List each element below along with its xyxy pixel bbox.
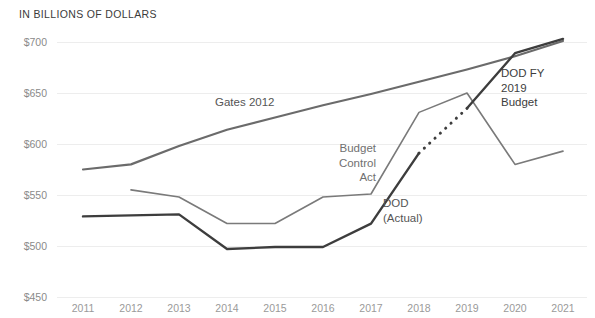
y-tick-label-700: $700: [24, 36, 48, 48]
annotation-gates-2012: Gates 2012: [215, 96, 274, 108]
annotation-dod-fy-2019-budget-line-2: Budget: [501, 96, 538, 108]
annotation-dod-actual-line-1: (Actual): [383, 212, 423, 224]
y-tick-label-650: $650: [24, 87, 48, 99]
chart-title: IN BILLIONS OF DOLLARS: [19, 8, 157, 20]
defense-budget-line-chart: IN BILLIONS OF DOLLARS $450$500$550$600$…: [0, 0, 595, 318]
y-tick-label-550: $550: [24, 189, 48, 201]
x-tick-label-2012: 2012: [119, 302, 143, 314]
y-tick-label-450: $450: [24, 291, 48, 303]
x-tick-label-2014: 2014: [215, 302, 239, 314]
y-tick-label-600: $600: [24, 138, 48, 150]
x-tick-label-2017: 2017: [359, 302, 383, 314]
annotation-gates-2012-line-0: Gates 2012: [215, 96, 274, 108]
annotation-budget-control-act-line-1: Control: [339, 157, 376, 169]
x-tick-label-2011: 2011: [72, 302, 95, 314]
annotation-dod-fy-2019-budget-line-1: 2019: [501, 82, 527, 94]
x-tick-label-2021: 2021: [551, 302, 575, 314]
y-tick-label-500: $500: [24, 240, 48, 252]
annotation-budget-control-act-line-2: Act: [359, 171, 376, 183]
annotation-dod-fy-2019-budget-line-0: DOD FY: [501, 67, 545, 79]
x-tick-label-2020: 2020: [503, 302, 527, 314]
x-tick-label-2013: 2013: [167, 302, 191, 314]
annotation-budget-control-act-line-0: Budget: [340, 142, 377, 154]
x-tick-label-2015: 2015: [263, 302, 287, 314]
x-tick-label-2018: 2018: [407, 302, 431, 314]
chart-background: [0, 0, 595, 318]
x-tick-label-2016: 2016: [311, 302, 335, 314]
annotation-dod-actual-line-0: DOD: [383, 197, 409, 209]
x-tick-label-2019: 2019: [455, 302, 479, 314]
